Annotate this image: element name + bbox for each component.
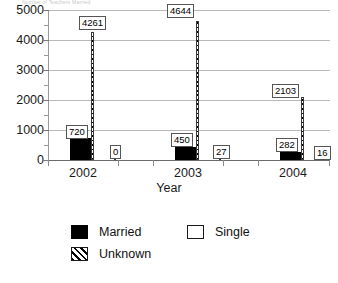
y-axis-label-2000: 2000 [0, 94, 44, 107]
legend-swatch-married-icon [71, 225, 88, 239]
y-tick-2500 [44, 85, 49, 86]
bar-unknown-2002[interactable] [91, 32, 94, 160]
x-axis-label-2004: 2004 [263, 166, 323, 180]
y-tick-1000 [43, 130, 49, 131]
y-tick-3500 [44, 55, 49, 56]
legend-item-unknown[interactable]: Unknown [71, 247, 151, 261]
legend-item-single[interactable]: Single [187, 225, 250, 239]
x-tick-4 [258, 160, 259, 166]
data-label-unknown-2003: 4644 [167, 4, 194, 18]
x-tick-2 [153, 160, 154, 166]
data-label-single-2002: 0 [110, 145, 121, 159]
bar-married-2002[interactable] [70, 138, 91, 160]
x-axis-label-2002: 2002 [53, 166, 113, 180]
x-tick-1 [118, 160, 119, 166]
legend-label-unknown: Unknown [99, 247, 151, 261]
data-label-single-2003: 27 [213, 145, 230, 159]
y-axis-label-4000: 4000 [0, 34, 44, 47]
data-label-married-2002: 720 [66, 125, 88, 139]
bar-married-2003[interactable] [175, 147, 196, 161]
y-tick-5000 [43, 10, 49, 11]
chart-title-cropped: Number of Teachers Married [22, 0, 182, 5]
x-tick-0 [48, 160, 49, 166]
bar-unknown-2004[interactable] [301, 97, 304, 160]
data-label-married-2004: 282 [276, 138, 298, 152]
y-axis-label-0: 0 [0, 154, 44, 167]
legend-item-married[interactable]: Married [71, 225, 141, 239]
bar-married-2004[interactable] [280, 152, 301, 161]
x-axis-label-2003: 2003 [158, 166, 218, 180]
y-axis-label-3000: 3000 [0, 64, 44, 77]
data-label-single-2004: 16 [314, 146, 331, 160]
y-tick-1500 [44, 115, 49, 116]
x-tick-5 [329, 160, 330, 166]
data-label-married-2003: 450 [171, 133, 193, 147]
legend-swatch-unknown-icon [71, 247, 88, 261]
y-tick-3000 [43, 70, 49, 71]
bar-chart: Number of Teachers Married 5000 4000 300… [0, 0, 338, 283]
x-axis-title: Year [0, 181, 338, 195]
legend-label-married: Married [99, 225, 141, 239]
bar-unknown-2003[interactable] [196, 21, 199, 160]
legend-swatch-single-icon [187, 225, 204, 239]
data-label-unknown-2002: 4261 [79, 16, 106, 30]
y-tick-4500 [44, 25, 49, 26]
x-tick-3 [223, 160, 224, 166]
y-axis-label-5000: 5000 [0, 4, 44, 17]
y-axis-label-1000: 1000 [0, 124, 44, 137]
chart-legend: Married Single Unknown [0, 216, 338, 276]
y-tick-500 [44, 145, 49, 146]
y-tick-4000 [43, 40, 49, 41]
y-tick-2000 [43, 100, 49, 101]
axis-baseline [48, 160, 330, 161]
legend-label-single: Single [215, 225, 250, 239]
data-label-unknown-2004: 2103 [272, 84, 299, 98]
